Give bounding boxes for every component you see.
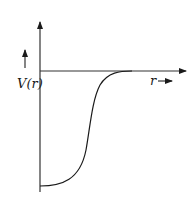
x-axis-label: r: [150, 73, 157, 88]
potential-diagram: V(r) r: [0, 0, 196, 206]
potential-curve: [40, 71, 132, 186]
y-axis-label: V(r): [17, 76, 43, 91]
